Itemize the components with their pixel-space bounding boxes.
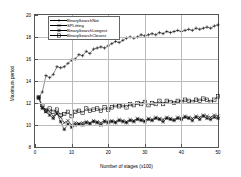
chart-legend: BinarySearchNotSPLittingBinarySearchLong… — [48, 16, 120, 40]
y-tick — [35, 81, 38, 82]
y-tick-label: 14 — [21, 79, 31, 84]
y-tick-label: 16 — [21, 57, 31, 62]
y-tick — [35, 59, 38, 60]
x-tick — [181, 144, 182, 147]
y-tick-label: 10 — [21, 123, 31, 128]
x-tick — [72, 144, 73, 147]
y-tick-label: 8 — [21, 145, 31, 150]
y-tick — [35, 15, 38, 16]
x-tick-label: 40 — [179, 150, 184, 155]
y-gridline — [35, 103, 218, 104]
series-3 — [37, 95, 220, 118]
legend-label: BinarySearchClosest — [67, 33, 106, 38]
x-tick — [145, 144, 146, 147]
y-gridline — [35, 125, 218, 126]
y-tick — [35, 147, 38, 148]
y-tick — [35, 103, 38, 104]
y-tick-label: 20 — [21, 13, 31, 18]
x-tick-label: 30 — [142, 150, 147, 155]
x-tick — [218, 144, 219, 147]
x-axis-title: Number of stages (x100) — [34, 164, 219, 169]
x-tick — [108, 144, 109, 147]
y-tick-label: 12 — [21, 101, 31, 106]
x-tick-label: 50 — [215, 150, 220, 155]
x-tick-label: 0 — [34, 150, 37, 155]
chart-figure: 010203040508101214161820 Number of stage… — [0, 0, 241, 177]
y-gridline — [35, 81, 218, 82]
y-gridline — [35, 59, 218, 60]
legend-symbol-square-icon — [50, 33, 67, 38]
y-tick — [35, 125, 38, 126]
y-axis-title: Maximum period — [10, 54, 15, 114]
y-tick — [35, 37, 38, 38]
y-tick-label: 18 — [21, 35, 31, 40]
x-tick-label: 20 — [106, 150, 111, 155]
x-tick-label: 10 — [69, 150, 74, 155]
legend-item-3: BinarySearchClosest — [50, 33, 117, 38]
